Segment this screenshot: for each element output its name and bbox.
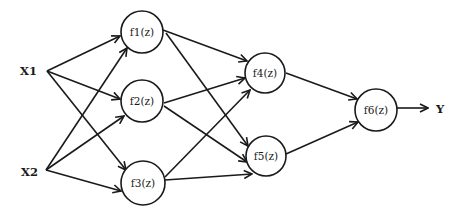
- node-f2-label: f2(z): [130, 95, 154, 107]
- output-y-label: Y: [435, 102, 445, 116]
- edge-f5-f6: [286, 122, 358, 154]
- edge-f2-f5: [164, 106, 247, 162]
- node-f6-label: f6(z): [364, 104, 388, 116]
- edge-f4-f6: [286, 73, 357, 99]
- neural-network-diagram: X1 X2 f1(z) f2(z) f3(z) f4(z) f5(z) f6(z…: [0, 0, 464, 216]
- node-f3-label: f3(z): [131, 177, 155, 189]
- node-f4-label: f4(z): [253, 67, 277, 79]
- node-f4: f4(z): [245, 53, 285, 93]
- input-labels: X1 X2: [20, 64, 38, 179]
- node-f1-label: f1(z): [130, 26, 154, 38]
- edge-x2-f3: [46, 170, 121, 191]
- node-f3: f3(z): [121, 161, 165, 205]
- edge-x1-f1: [47, 36, 120, 71]
- edge-x2-f2: [46, 116, 124, 170]
- edge-f2-f4: [164, 78, 245, 103]
- node-f6: f6(z): [355, 89, 397, 131]
- node-f5: f5(z): [246, 136, 286, 176]
- input-x1-label: X1: [20, 64, 37, 78]
- edge-f3-f4: [165, 90, 250, 177]
- input-x2-label: X2: [21, 165, 38, 179]
- edge-f3-f5: [165, 174, 252, 180]
- node-f5-label: f5(z): [254, 150, 278, 162]
- node-f1: f1(z): [121, 11, 163, 53]
- node-f2: f2(z): [121, 80, 163, 122]
